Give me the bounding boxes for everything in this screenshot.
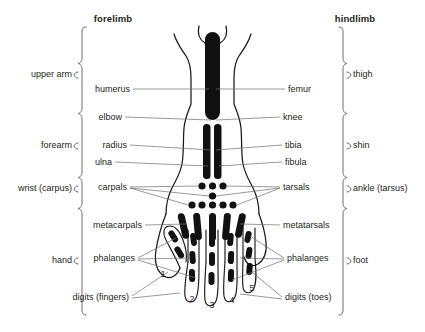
label-phalanges-right: phalanges [287,253,329,263]
right-outer-brace [339,27,347,315]
left-bracket-pointers [74,72,78,264]
left-bracket-label-wrist: wrist (carpus) [17,183,72,193]
digit-number-4: 4 [229,295,234,305]
label-fibula: fibula [285,157,307,167]
label-carpals: carpals [98,182,128,192]
radius-ulna-bones [203,124,222,179]
humerus-femur-bone [205,32,220,120]
label-femur: femur [288,84,311,94]
left-bracket-label-forearm: forearm [41,140,72,150]
left-outer-brace [78,27,86,315]
diagram-canvas: forelimb hindlimb upper arm forearm wris… [0,0,425,332]
label-radius: radius [102,140,127,150]
limb-homology-illustration: forelimb hindlimb upper arm forearm wris… [0,0,425,332]
digit-number-5: 5 [249,283,254,293]
right-bracket-pointers [347,72,351,264]
digit-number-3: 3 [209,300,214,310]
forelimb-heading: forelimb [94,13,132,24]
label-ulna: ulna [95,157,112,167]
label-metatarsals: metatarsals [283,220,330,230]
left-bracket-label-hand: hand [52,255,72,265]
hindlimb-heading: hindlimb [335,13,375,24]
label-humerus: humerus [95,84,131,94]
label-elbow: elbow [98,112,122,122]
digit-number-2: 2 [189,294,194,304]
label-metacarpals: metacarpals [93,220,143,230]
digit-number-1: 1 [160,269,165,279]
right-bracket-label-ankle: ankle (tarsus) [353,183,408,193]
right-bracket-label-shin: shin [353,140,370,150]
label-tibia: tibia [285,140,302,150]
label-digits-toes: digits (toes) [285,292,332,302]
label-tarsals: tarsals [283,182,310,192]
label-phalanges-left: phalanges [93,253,135,263]
right-bracket-label-foot: foot [353,255,369,265]
left-bracket-label-upper-arm: upper arm [31,69,72,79]
right-bracket-label-thigh: thigh [353,69,373,79]
label-knee: knee [283,112,303,122]
label-digits-fingers: digits (fingers) [72,292,129,302]
